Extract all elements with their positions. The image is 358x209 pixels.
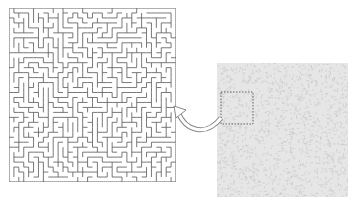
zoom-arrow-icon — [0, 0, 358, 209]
